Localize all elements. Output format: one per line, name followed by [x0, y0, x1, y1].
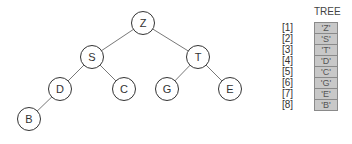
array-title: TREE: [314, 6, 341, 17]
tree-node-g: G: [156, 78, 179, 101]
array-index: [1]: [282, 22, 293, 33]
array-index: [7]: [282, 88, 293, 99]
svg-text:S: S: [88, 51, 95, 63]
tree-node-d: D: [49, 78, 72, 101]
array-index: [5]: [282, 66, 293, 77]
svg-text:E: E: [226, 83, 233, 95]
array-index: [6]: [282, 77, 293, 88]
tree-node-s: S: [81, 46, 104, 69]
array-row: [5]'C': [280, 66, 344, 77]
svg-text:D: D: [56, 83, 64, 95]
tree-node-e: E: [219, 78, 242, 101]
array-row: [4]'D': [280, 55, 344, 66]
svg-text:T: T: [195, 51, 202, 63]
svg-text:G: G: [163, 83, 172, 95]
svg-text:C: C: [120, 83, 128, 95]
svg-text:B: B: [25, 113, 32, 125]
svg-text:Z: Z: [140, 17, 147, 29]
tree-node-c: C: [113, 78, 136, 101]
binary-tree: ZSTDCGEB: [0, 0, 270, 144]
array-index: [8]: [282, 99, 293, 110]
array-row: [7]'E': [280, 88, 344, 99]
array-row: [6]'G': [280, 77, 344, 88]
tree-node-z: Z: [132, 12, 155, 35]
array-row: [2]'S': [280, 33, 344, 44]
array-index: [3]: [282, 44, 293, 55]
tree-node-b: B: [18, 108, 41, 131]
array-cell: 'B': [314, 99, 338, 111]
array-row: [1]'Z': [280, 22, 344, 33]
array-row: [3]'T': [280, 44, 344, 55]
array-row: [8]'B': [280, 99, 344, 110]
array-index: [4]: [282, 55, 293, 66]
tree-node-t: T: [187, 46, 210, 69]
array-index: [2]: [282, 33, 293, 44]
